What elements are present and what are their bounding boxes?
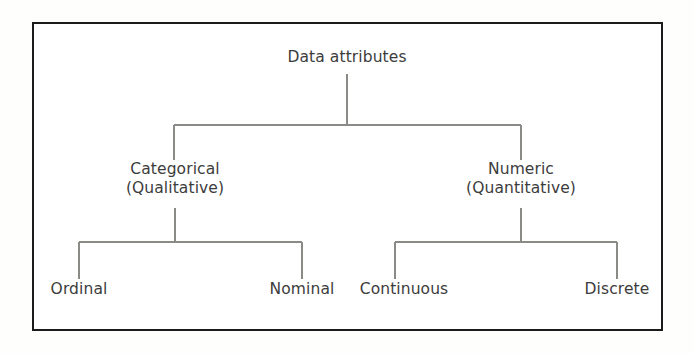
node-ordinal: Ordinal [51,280,108,299]
node-data-attributes-label: Data attributes [287,48,406,67]
node-categorical-label-line1: Categorical [126,160,224,179]
node-continuous: Continuous [360,280,449,299]
node-discrete-label: Discrete [585,280,650,299]
node-discrete: Discrete [585,280,650,299]
node-categorical: Categorical (Qualitative) [126,160,224,198]
node-nominal: Nominal [270,280,335,299]
node-numeric: Numeric (Quantitative) [466,160,576,198]
page-canvas: Data attributes Categorical (Qualitative… [0,0,694,354]
node-numeric-label-line2: (Quantitative) [466,179,576,198]
node-numeric-label-line1: Numeric [466,160,576,179]
node-categorical-label-line2: (Qualitative) [126,179,224,198]
node-continuous-label: Continuous [360,280,449,299]
node-data-attributes: Data attributes [287,48,406,67]
node-nominal-label: Nominal [270,280,335,299]
node-ordinal-label: Ordinal [51,280,108,299]
